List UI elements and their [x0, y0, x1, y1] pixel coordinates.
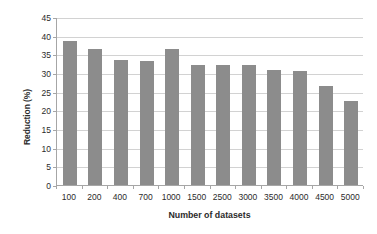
x-tick-mark — [107, 186, 108, 189]
bar[interactable] — [267, 70, 281, 186]
x-tick-label: 5000 — [337, 192, 363, 202]
bar[interactable] — [293, 71, 307, 185]
bars-layer — [57, 18, 363, 186]
x-tick-label: 700 — [133, 192, 159, 202]
x-tick-label: 400 — [107, 192, 133, 202]
x-tick-label: 1500 — [184, 192, 210, 202]
bar-slot — [83, 49, 109, 185]
x-tick-mark — [184, 186, 185, 189]
bar-slot — [159, 49, 185, 185]
x-tick-mark — [133, 186, 134, 189]
x-tick-label: 4000 — [286, 192, 312, 202]
bar-slot — [287, 71, 313, 185]
x-tick-mark — [261, 186, 262, 189]
y-tick-label: 0 — [12, 182, 56, 191]
bar[interactable] — [165, 49, 179, 185]
y-tick-label: 20 — [12, 107, 56, 116]
x-tick-mark — [337, 186, 338, 189]
x-tick-mark — [363, 186, 364, 189]
bar-slot — [185, 65, 211, 185]
y-tick-label: 40 — [12, 32, 56, 41]
bar-slot — [57, 41, 83, 185]
bar-slot — [338, 101, 364, 185]
bar-slot — [134, 61, 160, 185]
y-tick-label: 25 — [12, 88, 56, 97]
x-tick-label: 200 — [82, 192, 108, 202]
x-tick-mark — [312, 186, 313, 189]
bar[interactable] — [319, 86, 333, 185]
x-tick-label: 1000 — [158, 192, 184, 202]
bar[interactable] — [140, 61, 154, 185]
bar-slot — [236, 65, 262, 185]
y-tick-label: 10 — [12, 144, 56, 153]
y-tick-label: 5 — [12, 163, 56, 172]
bar[interactable] — [114, 60, 128, 185]
bar[interactable] — [344, 101, 358, 185]
x-tick-label: 3000 — [235, 192, 261, 202]
bar-chart: Reduction (%) 051015202530354045 1002004… — [0, 0, 377, 234]
x-tick-label: 3500 — [261, 192, 287, 202]
bar[interactable] — [191, 65, 205, 185]
plot-area — [56, 18, 363, 186]
bar-slot — [262, 70, 288, 186]
x-tick-mark — [158, 186, 159, 189]
x-tick-mark — [56, 186, 57, 189]
x-tick-label: 100 — [56, 192, 82, 202]
y-tick-label: 35 — [12, 51, 56, 60]
x-tick-mark — [235, 186, 236, 189]
bar[interactable] — [63, 41, 77, 185]
bar-slot — [211, 65, 237, 185]
x-tick-mark — [82, 186, 83, 189]
x-tick-label: 2500 — [210, 192, 236, 202]
y-tick-label: 15 — [12, 126, 56, 135]
x-axis-title: Number of datasets — [56, 210, 363, 220]
bar-slot — [108, 60, 134, 185]
y-tick-label: 45 — [12, 14, 56, 23]
bar[interactable] — [88, 49, 102, 185]
bar-slot — [313, 86, 339, 185]
x-tick-label: 4500 — [312, 192, 338, 202]
bar[interactable] — [216, 65, 230, 185]
x-tick-mark — [286, 186, 287, 189]
x-tick-mark — [210, 186, 211, 189]
y-tick-label: 30 — [12, 70, 56, 79]
bar[interactable] — [242, 65, 256, 185]
